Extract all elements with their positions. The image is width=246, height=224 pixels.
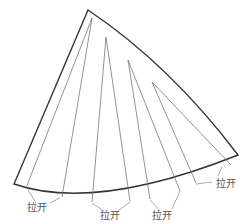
spread-label: 拉开: [27, 201, 47, 213]
pattern-outline: [14, 10, 238, 193]
pattern-diagram: 拉开 拉开 拉开 拉开: [0, 0, 246, 224]
spread-label: 拉开: [152, 209, 172, 221]
spread-label: 拉开: [216, 177, 236, 189]
spread-label: 拉开: [100, 209, 120, 221]
slash-lines: [26, 18, 231, 202]
